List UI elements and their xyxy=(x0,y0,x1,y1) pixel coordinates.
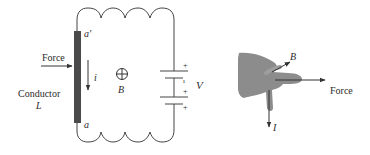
top-end-label: a′ xyxy=(84,28,92,39)
battery-plus-2: + xyxy=(183,87,188,96)
conductor-bar xyxy=(74,31,81,123)
field-label: B xyxy=(118,84,124,95)
hand-current-label: I xyxy=(272,122,277,133)
hand-force-label: Force xyxy=(330,85,353,96)
field-into-page-icon xyxy=(117,69,128,80)
length-label: L xyxy=(35,100,42,111)
current-label: i xyxy=(94,72,97,83)
voltage-label: V xyxy=(196,79,204,91)
hand-field-label: B xyxy=(290,51,296,62)
battery-plus-3: + xyxy=(183,103,188,112)
bottom-end-label: a xyxy=(84,119,89,130)
circuit-wires xyxy=(77,8,174,142)
force-label: Force xyxy=(42,52,65,63)
conductor-label: Conductor xyxy=(18,88,61,99)
battery-minus: ı xyxy=(183,77,185,85)
circuit-diagram: + ı + + V a′ a Force i B Conductor L B F… xyxy=(0,0,370,155)
battery-plus-1: + xyxy=(183,61,188,70)
